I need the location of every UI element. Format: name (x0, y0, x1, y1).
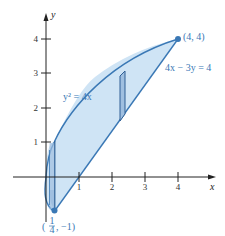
region-diagram: 1 2 3 4 1 2 3 4 y x y² = 4x 4x − 3y = 4 … (0, 0, 225, 236)
y-axis-label: y (50, 9, 56, 20)
point-lower (52, 208, 58, 214)
x-axis-arrow-icon (208, 175, 216, 180)
y-axis-arrow-icon (44, 13, 49, 21)
svg-text:, −1): , −1) (56, 221, 75, 233)
point-upper-label: (4, 4) (183, 31, 205, 43)
point-upper (175, 36, 181, 42)
y-tick-2: 2 (34, 103, 39, 113)
point-lower-label: ( 1 4 , −1) (42, 215, 75, 235)
y-tick-3: 3 (34, 68, 39, 78)
x-ticks: 1 2 3 4 (77, 172, 181, 192)
svg-text:(: ( (42, 221, 46, 233)
y-tick-1: 1 (34, 137, 39, 147)
svg-text:4: 4 (50, 224, 55, 235)
left-strip-rect (50, 143, 55, 209)
x-tick-2: 2 (110, 182, 115, 192)
line-label: 4x − 3y = 4 (165, 62, 211, 73)
x-tick-1: 1 (77, 182, 82, 192)
right-strip (120, 71, 125, 121)
parabola-label: y² = 4x (63, 91, 92, 102)
x-tick-3: 3 (143, 182, 148, 192)
y-tick-4: 4 (34, 34, 39, 44)
x-axis-label: x (209, 181, 215, 192)
x-tick-4: 4 (176, 182, 181, 192)
y-ticks: 1 2 3 4 (34, 34, 52, 147)
